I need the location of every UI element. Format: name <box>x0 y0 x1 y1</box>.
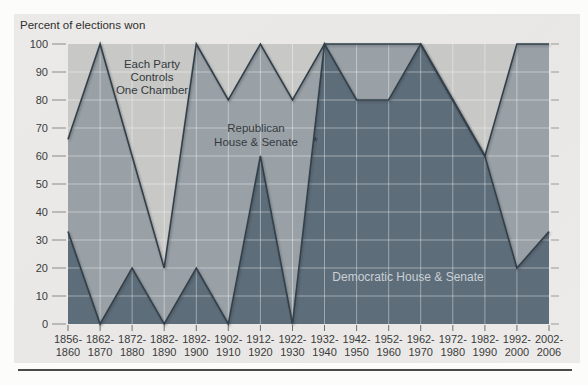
republican-area-label: Republican House & Senate <box>190 121 322 149</box>
y-tick-label: 80 <box>14 94 48 106</box>
y-tick-label: 20 <box>14 262 48 274</box>
plot-area: Each Party Controls One Chamber Republic… <box>68 44 549 324</box>
x-tick-label: 2002- 2006 <box>527 333 571 358</box>
y-tick-label: 50 <box>14 178 48 190</box>
y-tick-label: 40 <box>14 206 48 218</box>
y-tick-label: 10 <box>14 290 48 302</box>
annotation-asterisk: * <box>313 134 318 149</box>
y-tick-label: 100 <box>14 38 48 50</box>
democratic-area-label: Democratic House & Senate <box>327 270 489 284</box>
y-tick-label: 90 <box>14 66 48 78</box>
bottom-rule <box>18 369 572 371</box>
chart-panel: Percent of elections won Each Party Cont… <box>14 14 580 363</box>
y-tick-label: 60 <box>14 150 48 162</box>
y-tick-label: 30 <box>14 234 48 246</box>
figure-page: Percent of elections won Each Party Cont… <box>0 0 588 385</box>
split-control-area-label: Each Party Controls One Chamber <box>96 58 208 97</box>
y-tick-label: 70 <box>14 122 48 134</box>
y-tick-label: 0 <box>14 318 48 330</box>
chart-title: Percent of elections won <box>20 19 145 31</box>
